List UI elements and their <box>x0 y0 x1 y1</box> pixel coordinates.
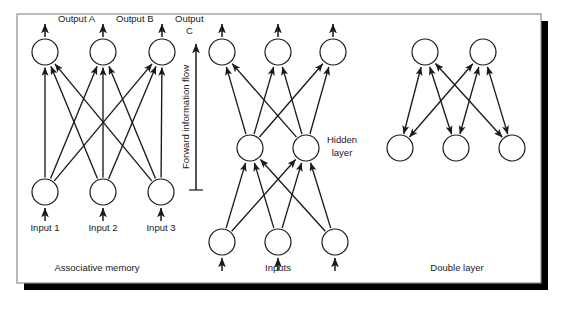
neuron-node <box>265 39 291 65</box>
node-label: Output A <box>58 13 96 24</box>
neuron-node <box>322 229 348 255</box>
panel-caption: Associative memory <box>55 262 140 273</box>
node-label: Input 2 <box>88 222 117 233</box>
neuron-node <box>265 229 291 255</box>
node-label: Input 3 <box>146 222 175 233</box>
neuron-node <box>32 39 58 65</box>
neuron-node <box>320 39 346 65</box>
neuron-node <box>149 39 175 65</box>
figure-canvas: Forward information flow Output AOutput … <box>0 0 564 313</box>
node-label: Input 1 <box>30 222 59 233</box>
neuron-node <box>209 39 235 65</box>
neuron-node <box>148 179 174 205</box>
neuron-node <box>470 39 496 65</box>
node-label: Output <box>175 13 204 24</box>
panel-caption: Inputs <box>265 262 291 273</box>
neuron-node <box>90 39 116 65</box>
neuron-node <box>387 135 413 161</box>
layer-annotation: layer <box>332 147 353 158</box>
neuron-node <box>237 135 263 161</box>
node-label-cont: C <box>186 25 193 36</box>
neuron-node <box>293 135 319 161</box>
neuron-node <box>90 179 116 205</box>
edge <box>161 67 162 177</box>
neuron-node <box>209 229 235 255</box>
neuron-node <box>32 179 58 205</box>
neural-network-diagram: Forward information flow Output AOutput … <box>0 0 564 313</box>
neuron-node <box>443 135 469 161</box>
node-label: Output B <box>116 13 154 24</box>
panel-caption: Double layer <box>430 262 483 273</box>
forward-flow-label: Forward information flow <box>180 65 191 169</box>
neuron-node <box>412 39 438 65</box>
layer-annotation: Hidden <box>327 134 357 145</box>
neuron-node <box>499 135 525 161</box>
